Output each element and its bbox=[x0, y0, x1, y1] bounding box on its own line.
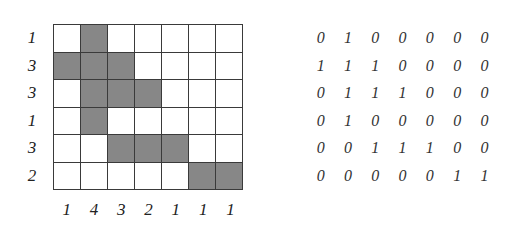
matrix-value: 0 bbox=[416, 24, 443, 52]
grid-cell-empty bbox=[108, 25, 135, 53]
grid-cell-empty bbox=[162, 25, 189, 53]
grid-cell-filled bbox=[81, 25, 108, 53]
matrix-value: 0 bbox=[416, 162, 443, 190]
matrix-value: 1 bbox=[307, 52, 334, 80]
matrix-row: 0011100 bbox=[307, 134, 498, 162]
column-count: 4 bbox=[80, 200, 107, 220]
grid-cell-filled bbox=[81, 80, 108, 108]
matrix-value: 0 bbox=[471, 79, 498, 107]
grid-cell-filled bbox=[81, 107, 108, 135]
grid-cell-empty bbox=[81, 162, 108, 190]
grid-cell-filled bbox=[135, 80, 162, 108]
binary-matrix: 0100000111000001110000100000001110000000… bbox=[307, 24, 498, 189]
matrix-value: 0 bbox=[416, 107, 443, 135]
matrix-value: 0 bbox=[416, 79, 443, 107]
grid-row bbox=[54, 107, 243, 135]
matrix-value: 0 bbox=[362, 24, 389, 52]
grid-cell-filled bbox=[108, 52, 135, 80]
column-count: 1 bbox=[217, 200, 244, 220]
matrix-row: 1110000 bbox=[307, 52, 498, 80]
matrix-value: 0 bbox=[307, 134, 334, 162]
matrix-value: 0 bbox=[471, 107, 498, 135]
matrix-value: 1 bbox=[389, 79, 416, 107]
grid-cell-empty bbox=[81, 135, 108, 163]
matrix-value: 0 bbox=[307, 107, 334, 135]
column-count: 1 bbox=[189, 200, 216, 220]
grid-row bbox=[54, 52, 243, 80]
matrix-value: 0 bbox=[389, 162, 416, 190]
column-count: 3 bbox=[108, 200, 135, 220]
grid-cell-empty bbox=[54, 135, 81, 163]
grid-cell-filled bbox=[216, 162, 243, 190]
matrix-value: 0 bbox=[443, 24, 470, 52]
grid-cell-empty bbox=[54, 25, 81, 53]
grid-row bbox=[54, 135, 243, 163]
matrix-value: 1 bbox=[471, 162, 498, 190]
grid-cell-empty bbox=[216, 107, 243, 135]
matrix-value: 0 bbox=[307, 24, 334, 52]
grid-cell-empty bbox=[189, 107, 216, 135]
matrix-value: 1 bbox=[334, 107, 361, 135]
grid-cell-filled bbox=[81, 52, 108, 80]
matrix-value: 1 bbox=[416, 134, 443, 162]
grid-cell-empty bbox=[54, 80, 81, 108]
grid-cell-empty bbox=[216, 25, 243, 53]
matrix-row: 0111000 bbox=[307, 79, 498, 107]
matrix-value: 0 bbox=[471, 52, 498, 80]
grid-cell-empty bbox=[135, 25, 162, 53]
grid-cell-empty bbox=[162, 80, 189, 108]
matrix-value: 0 bbox=[443, 52, 470, 80]
row-count: 3 bbox=[22, 79, 42, 107]
matrix-value: 1 bbox=[334, 24, 361, 52]
row-count-labels: 1 3 3 1 3 2 bbox=[22, 24, 42, 189]
matrix-row: 0100000 bbox=[307, 107, 498, 135]
grid-cell-empty bbox=[135, 107, 162, 135]
matrix-value: 1 bbox=[389, 134, 416, 162]
grid-cell-empty bbox=[189, 80, 216, 108]
matrix-value: 0 bbox=[307, 79, 334, 107]
matrix-value: 0 bbox=[389, 24, 416, 52]
grid-cell-empty bbox=[54, 162, 81, 190]
matrix-value: 0 bbox=[443, 134, 470, 162]
grid-cell-empty bbox=[189, 52, 216, 80]
grid-cell-empty bbox=[189, 135, 216, 163]
matrix-value: 1 bbox=[362, 79, 389, 107]
matrix-value: 0 bbox=[471, 24, 498, 52]
grid-cell-filled bbox=[108, 135, 135, 163]
grid-cell-filled bbox=[162, 135, 189, 163]
matrix-row: 0100000 bbox=[307, 24, 498, 52]
grid-cell-empty bbox=[135, 52, 162, 80]
grid-cell-filled bbox=[108, 80, 135, 108]
grid-cell-empty bbox=[162, 107, 189, 135]
matrix-row: 0000011 bbox=[307, 162, 498, 190]
grid-cell-empty bbox=[216, 80, 243, 108]
grid-cell-empty bbox=[108, 162, 135, 190]
matrix-value: 0 bbox=[307, 162, 334, 190]
grid-row bbox=[54, 25, 243, 53]
matrix-value: 0 bbox=[389, 107, 416, 135]
matrix-value: 1 bbox=[362, 52, 389, 80]
matrix-value: 0 bbox=[362, 107, 389, 135]
matrix-value: 0 bbox=[334, 134, 361, 162]
grid-row bbox=[54, 162, 243, 190]
matrix-value: 0 bbox=[389, 52, 416, 80]
matrix-value: 0 bbox=[362, 162, 389, 190]
shaded-grid bbox=[53, 24, 243, 190]
row-count: 3 bbox=[22, 52, 42, 80]
matrix-value: 1 bbox=[362, 134, 389, 162]
grid-cell-empty bbox=[162, 52, 189, 80]
grid-cell-empty bbox=[54, 107, 81, 135]
matrix-value: 0 bbox=[471, 134, 498, 162]
grid-cell-empty bbox=[216, 52, 243, 80]
grid-cell-empty bbox=[162, 162, 189, 190]
matrix-value: 1 bbox=[334, 79, 361, 107]
column-count-labels: 1 4 3 2 1 1 1 bbox=[53, 200, 244, 220]
row-count: 3 bbox=[22, 134, 42, 162]
matrix-value: 1 bbox=[334, 52, 361, 80]
grid-cell-filled bbox=[135, 135, 162, 163]
matrix-value: 0 bbox=[416, 52, 443, 80]
row-count: 1 bbox=[22, 107, 42, 135]
column-count: 2 bbox=[135, 200, 162, 220]
grid-cell-empty bbox=[108, 107, 135, 135]
grid-cell-empty bbox=[135, 162, 162, 190]
